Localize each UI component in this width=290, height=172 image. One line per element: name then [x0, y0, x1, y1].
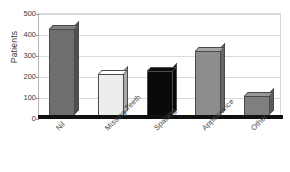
- y-tick-label-400: 400: [14, 30, 36, 39]
- bar-side-face: [75, 21, 79, 114]
- x-axis-tick-labels: NilMissing TeethSpacingAppearanceOther: [38, 118, 281, 172]
- bar-nil: [49, 29, 75, 118]
- x-tick-label-nil: Nil: [54, 120, 67, 133]
- y-axis-tick-labels: 0100200300400500: [14, 13, 36, 118]
- y-tick-label-500: 500: [14, 9, 36, 18]
- bar-side-face: [173, 63, 177, 114]
- bar-front-face: [49, 29, 75, 118]
- y-tick-label-300: 300: [14, 51, 36, 60]
- y-tick-label-0: 0: [14, 114, 36, 123]
- y-tick-label-200: 200: [14, 72, 36, 81]
- bars-layer: [38, 13, 281, 118]
- y-tick-label-100: 100: [14, 93, 36, 102]
- bar-chart: Patients 0100200300400500 NilMissing Tee…: [0, 0, 290, 172]
